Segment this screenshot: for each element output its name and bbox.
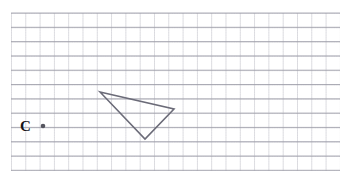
center-point-c-dot	[41, 124, 46, 129]
geometry-figure	[0, 0, 343, 181]
figure-canvas: C	[0, 0, 343, 181]
grid-major-lines	[11, 13, 340, 171]
center-point-c-label: C	[20, 119, 31, 134]
